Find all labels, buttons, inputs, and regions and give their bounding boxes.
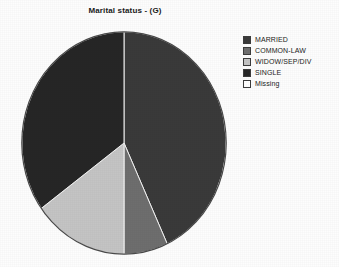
- legend-swatch-icon: [243, 58, 251, 66]
- legend-swatch-icon: [243, 36, 251, 44]
- legend-item-label: Missing: [255, 80, 279, 87]
- legend-item-married[interactable]: MARRIED: [243, 34, 338, 45]
- legend-item-label: COMMON-LAW: [255, 47, 306, 54]
- legend-swatch-icon: [243, 80, 251, 88]
- pie-chart-plot-area: [21, 31, 227, 255]
- pie-svg: [21, 31, 227, 255]
- pie-chart-figure: Marital status - (G) MARRIEDCOMMON-LAWWI…: [0, 0, 339, 267]
- legend-item-missing[interactable]: Missing: [243, 78, 338, 89]
- legend-item-single[interactable]: SINGLE: [243, 67, 338, 78]
- legend-swatch-icon: [243, 47, 251, 55]
- legend-item-label: SINGLE: [255, 69, 281, 76]
- legend-item-label: WIDOW/SEP/DIV: [255, 58, 312, 65]
- legend-swatch-icon: [243, 69, 251, 77]
- legend-item-label: MARRIED: [255, 36, 288, 43]
- chart-title: Marital status - (G): [0, 6, 250, 15]
- legend-item-widow-sep-div[interactable]: WIDOW/SEP/DIV: [243, 56, 338, 67]
- chart-legend: MARRIEDCOMMON-LAWWIDOW/SEP/DIVSINGLEMiss…: [243, 34, 338, 89]
- pie-slice-group: [22, 32, 226, 254]
- legend-item-common-law[interactable]: COMMON-LAW: [243, 45, 338, 56]
